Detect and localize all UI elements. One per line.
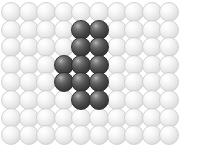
light-sphere <box>159 125 179 145</box>
light-sphere <box>159 2 179 22</box>
light-sphere <box>1 125 21 145</box>
light-sphere <box>159 90 179 110</box>
sphere-lattice-figure <box>0 0 201 164</box>
light-sphere <box>89 125 109 145</box>
sphere-lattice-grid <box>0 0 201 164</box>
dark-sphere <box>89 90 109 110</box>
